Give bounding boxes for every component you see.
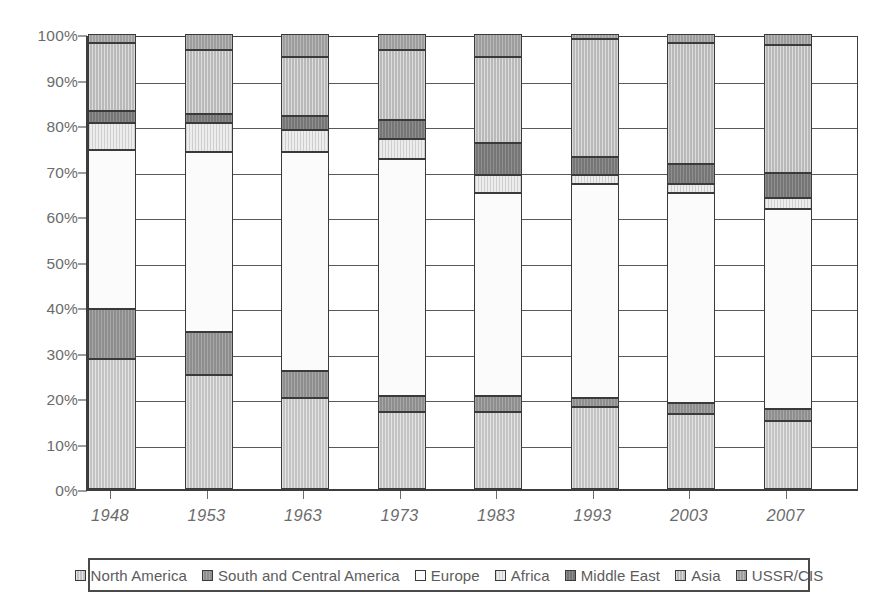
x-axis-tick-label: 1963 — [258, 506, 348, 525]
legend-swatch-icon — [202, 570, 213, 581]
bar-segment[interactable] — [474, 412, 522, 489]
legend-swatch-icon — [565, 570, 576, 581]
bar-segment[interactable] — [88, 123, 136, 150]
bar-segment[interactable] — [88, 111, 136, 122]
bar-segment[interactable] — [474, 175, 522, 193]
bar-segment[interactable] — [281, 398, 329, 489]
y-axis-tick-label: 60% — [8, 209, 78, 227]
legend-label: Africa — [511, 567, 550, 584]
bar-segment[interactable] — [378, 139, 426, 159]
bar-segment[interactable] — [378, 412, 426, 489]
stacked-bar[interactable] — [88, 34, 136, 489]
bar-segment[interactable] — [764, 34, 812, 45]
bar-segment[interactable] — [764, 421, 812, 489]
y-axis-tick-label: 70% — [8, 164, 78, 182]
bar-segment[interactable] — [88, 359, 136, 489]
x-axis-tick-mark — [496, 491, 497, 499]
y-axis-tick-label: 40% — [8, 300, 78, 318]
legend-label: South and Central America — [218, 567, 400, 584]
bar-segment[interactable] — [571, 175, 619, 184]
bar-segment[interactable] — [667, 403, 715, 414]
y-axis-tick-label: 10% — [8, 437, 78, 455]
x-axis-tick-label: 1948 — [65, 506, 155, 525]
legend-item[interactable]: USSR/CIS — [736, 567, 824, 584]
legend-swatch-icon — [75, 570, 86, 581]
bar-segment[interactable] — [571, 34, 619, 39]
bar-segment[interactable] — [764, 173, 812, 198]
x-axis-tick-mark — [110, 491, 111, 499]
stacked-bar[interactable] — [474, 34, 522, 489]
bar-segment[interactable] — [281, 152, 329, 370]
bar-segment[interactable] — [667, 43, 715, 164]
legend-item[interactable]: South and Central America — [202, 567, 400, 584]
legend-item[interactable]: Europe — [415, 567, 480, 584]
bar-segment[interactable] — [667, 34, 715, 43]
bar-segment[interactable] — [185, 34, 233, 50]
bar-segment[interactable] — [667, 414, 715, 489]
x-axis-tick-mark — [400, 491, 401, 499]
chart-root: 0%10%20%30%40%50%60%70%80%90%100% 194819… — [0, 0, 896, 614]
plot-area — [86, 36, 858, 491]
bar-segment[interactable] — [571, 398, 619, 407]
stacked-bar[interactable] — [185, 34, 233, 489]
bar-segment[interactable] — [378, 34, 426, 50]
bar-segment[interactable] — [185, 332, 233, 375]
legend-swatch-icon — [736, 570, 747, 581]
stacked-bar[interactable] — [378, 34, 426, 489]
bar-segment[interactable] — [667, 184, 715, 193]
x-axis-tick-mark — [786, 491, 787, 499]
stacked-bar[interactable] — [281, 34, 329, 489]
stacked-bar[interactable] — [571, 34, 619, 489]
bar-segment[interactable] — [571, 39, 619, 157]
bar-segment[interactable] — [281, 371, 329, 398]
legend-label: Middle East — [581, 567, 660, 584]
y-axis-tick-label: 90% — [8, 73, 78, 91]
bar-segment[interactable] — [185, 152, 233, 332]
bar-segment[interactable] — [378, 50, 426, 121]
bar-segment[interactable] — [474, 193, 522, 395]
bar-segment[interactable] — [281, 57, 329, 116]
legend-item[interactable]: North America — [75, 567, 187, 584]
x-axis-tick-label: 1953 — [162, 506, 252, 525]
bar-segment[interactable] — [571, 184, 619, 398]
bar-segment[interactable] — [378, 159, 426, 396]
bar-segment[interactable] — [88, 34, 136, 43]
bar-segment[interactable] — [88, 150, 136, 309]
bar-segment[interactable] — [474, 396, 522, 412]
legend-item[interactable]: Africa — [495, 567, 550, 584]
stacked-bar[interactable] — [667, 34, 715, 489]
x-axis-tick-label: 1973 — [355, 506, 445, 525]
bar-segment[interactable] — [378, 120, 426, 138]
y-axis-tick-label: 30% — [8, 346, 78, 364]
bar-segment[interactable] — [474, 143, 522, 175]
x-axis-tick-label: 1983 — [451, 506, 541, 525]
y-axis-tick-label: 50% — [8, 255, 78, 273]
bar-segment[interactable] — [185, 123, 233, 153]
bar-segment[interactable] — [88, 43, 136, 111]
x-axis-tick-mark — [689, 491, 690, 499]
bar-segment[interactable] — [88, 309, 136, 359]
bar-segment[interactable] — [185, 375, 233, 489]
bar-segment[interactable] — [571, 157, 619, 175]
bar-segment[interactable] — [474, 34, 522, 57]
bar-segment[interactable] — [667, 193, 715, 402]
x-axis-tick-mark — [593, 491, 594, 499]
bar-segment[interactable] — [185, 50, 233, 114]
legend-item[interactable]: Asia — [675, 567, 721, 584]
bar-segment[interactable] — [764, 409, 812, 420]
bar-segment[interactable] — [764, 209, 812, 409]
bar-segment[interactable] — [281, 34, 329, 57]
bar-segment[interactable] — [281, 130, 329, 153]
bar-segment[interactable] — [281, 116, 329, 130]
bar-segment[interactable] — [378, 396, 426, 412]
bar-segment[interactable] — [764, 45, 812, 172]
bar-segment[interactable] — [764, 198, 812, 209]
bar-segment[interactable] — [185, 114, 233, 123]
legend-swatch-icon — [495, 570, 506, 581]
legend-item[interactable]: Middle East — [565, 567, 660, 584]
bar-segment[interactable] — [571, 407, 619, 489]
bar-segment[interactable] — [667, 164, 715, 184]
legend-swatch-icon — [675, 570, 686, 581]
bar-segment[interactable] — [474, 57, 522, 143]
stacked-bar[interactable] — [764, 34, 812, 489]
